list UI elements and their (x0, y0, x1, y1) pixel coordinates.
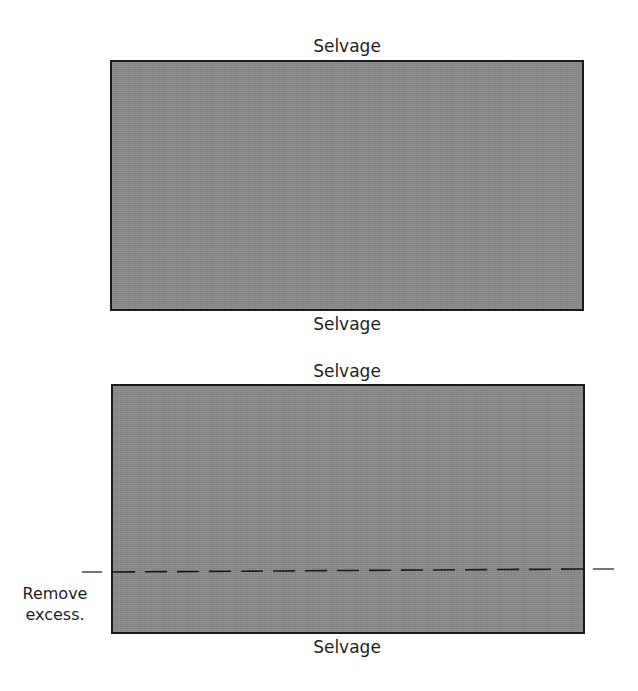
remove-excess-line-1: Remove (10, 583, 100, 604)
remove-excess-note: Remove excess. (10, 583, 100, 625)
remove-excess-line-2: excess. (10, 604, 100, 625)
dashed-cut-line (113, 569, 583, 572)
